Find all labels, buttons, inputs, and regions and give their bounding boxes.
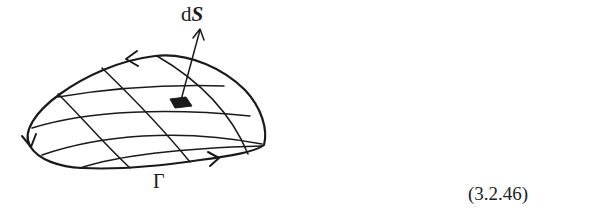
surface-element-label: dS: [181, 2, 203, 27]
grid-line-horizontal-2: [32, 112, 250, 128]
surface-element-symbol: S: [192, 2, 204, 26]
grid-line-horizontal-3: [42, 135, 262, 155]
equation-number: (3.2.46): [468, 183, 528, 205]
grid-line-horizontal-1: [58, 86, 224, 97]
normal-vector: [181, 30, 200, 100]
grid-line-vertical-1: [58, 94, 130, 168]
surface-element-patch: [170, 97, 192, 108]
grid-line-vertical-2: [102, 68, 190, 162]
boundary-curve-label: Γ: [153, 170, 165, 193]
surface-element-prefix: d: [181, 2, 192, 26]
